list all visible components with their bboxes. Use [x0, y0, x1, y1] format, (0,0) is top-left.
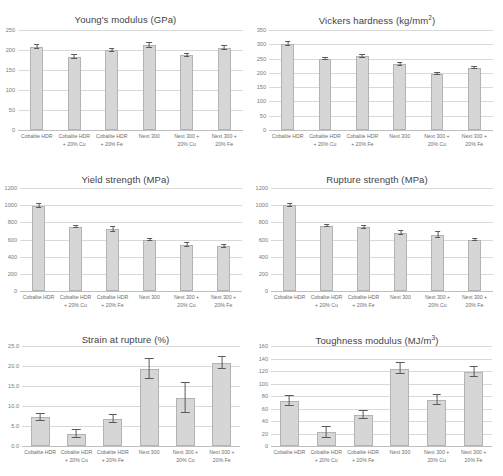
y-axis-tick-label: 100 — [257, 98, 266, 104]
error-bar-cap-top — [109, 414, 118, 415]
y-axis-tick-labels: 020040060080010001200 — [251, 188, 268, 291]
x-axis-category-label: Next 300 — [131, 448, 167, 464]
error-bar — [221, 356, 222, 369]
chart-panel-toughness-modulus: Toughness modulus (MJ/m3)020406080100120… — [251, 320, 503, 476]
bar-slot — [345, 188, 382, 291]
x-axis-category-label: Cobalite HDR + 20% Cu — [306, 132, 343, 148]
bar — [281, 44, 294, 130]
bar-slot — [131, 30, 169, 130]
error-bar-cap-top — [396, 362, 405, 363]
y-axis-tick-label: 800 — [8, 219, 17, 225]
y-axis-tick-label: 1200 — [5, 185, 17, 191]
bar-slot — [269, 30, 306, 130]
plot-area: 020406080100120140160 — [271, 346, 492, 446]
x-axis-category-label: Cobalite HDR + 20% Cu — [308, 293, 345, 309]
bar — [32, 206, 45, 291]
bar — [280, 401, 299, 446]
plot-area: 050100150200250300350 — [269, 30, 493, 130]
error-bar-cap-bottom — [145, 378, 154, 379]
y-axis-tick-label: 250 — [6, 27, 15, 33]
bar — [320, 226, 333, 291]
y-axis-tick-labels: 050100150200250300350 — [251, 30, 266, 130]
plot-area: 020040060080010001200 — [20, 188, 242, 291]
chart-title-text: Toughness modulus (MJ/m — [316, 335, 432, 346]
error-bar-cap-bottom — [73, 227, 79, 228]
error-bar-cap-bottom — [322, 437, 331, 438]
error-bar-cap-top — [322, 426, 331, 427]
x-axis-category-labels: Cobalite HDRCobalite HDR + 20% CuCobalit… — [269, 132, 493, 148]
error-bar-cap-bottom — [397, 65, 403, 66]
error-bar-cap-bottom — [287, 206, 293, 207]
x-axis-category-label: Cobalite HDR + 20% Cu — [56, 132, 94, 148]
error-bar-cap-bottom — [71, 58, 77, 59]
y-axis-tick-label: 0.0 — [11, 443, 19, 449]
bar-slot — [455, 346, 492, 446]
error-bar-cap-bottom — [109, 422, 118, 423]
y-axis-tick-label: 400 — [259, 254, 268, 260]
x-axis-category-label: Cobalite HDR — [20, 293, 57, 309]
bar-slot — [306, 30, 343, 130]
error-bar-cap-top — [397, 62, 403, 63]
chart-title: Rupture strength (MPa) — [251, 174, 503, 185]
y-axis-tick-label: 60 — [262, 406, 268, 412]
error-bar-cap-top — [73, 225, 79, 226]
bar — [143, 240, 156, 292]
y-axis-tick-label: 5.0 — [11, 423, 19, 429]
chart-title-text: Yield strength (MPa) — [81, 174, 169, 185]
bar — [68, 57, 81, 130]
x-axis-category-label: Next 300 + 20% Fe — [456, 132, 493, 148]
error-bar-cap-bottom — [285, 405, 294, 406]
y-axis-tick-label: 25.0 — [8, 343, 19, 349]
error-bar-cap-bottom — [184, 246, 190, 247]
bar — [180, 55, 193, 130]
bar-slot — [56, 30, 94, 130]
error-bar-cap-bottom — [469, 376, 478, 377]
bar — [105, 50, 118, 130]
error-bar-cap-bottom — [109, 51, 115, 52]
error-bar-cap-top — [145, 358, 154, 359]
axis-baseline — [22, 446, 240, 447]
x-axis-category-labels: Cobalite HDRCobalite HDR + 20% CuCobalit… — [22, 448, 240, 464]
bar-slot — [344, 30, 381, 130]
x-axis-category-label: Next 300 + 20% Fe — [206, 132, 244, 148]
bar-slot — [381, 30, 418, 130]
x-axis-category-label: Cobalite HDR + 20% Fe — [94, 293, 131, 309]
bar-slot — [131, 346, 167, 446]
y-axis-tick-label: 200 — [6, 47, 15, 53]
y-axis-tick-label: 150 — [257, 84, 266, 90]
chart-panel-strain-at-rupture: Strain at rupture (%)0.05.010.015.020.02… — [0, 320, 251, 476]
bar-slot — [271, 188, 308, 291]
x-axis-category-label: Cobalite HDR + 20% Fe — [93, 132, 131, 148]
bar-slot — [95, 346, 131, 446]
bar — [143, 45, 156, 130]
x-axis-category-label: Cobalite HDR — [269, 132, 306, 148]
x-axis-category-label: Next 300 — [381, 132, 418, 148]
x-axis-category-label: Cobalite HDR + 20% Cu — [57, 293, 94, 309]
bar-slot — [308, 346, 345, 446]
bar — [31, 417, 50, 446]
y-axis-tick-label: 80 — [262, 393, 268, 399]
y-axis-tick-label: 1000 — [256, 202, 268, 208]
error-bar-cap-bottom — [221, 49, 227, 50]
error-bar-cap-top — [218, 356, 227, 357]
x-axis-category-label: Next 300 — [131, 132, 169, 148]
bar-slot — [419, 188, 456, 291]
error-bar-cap-top — [221, 45, 227, 46]
error-bar-cap-top — [285, 41, 291, 42]
bar-slot — [205, 188, 242, 291]
bar — [283, 205, 296, 291]
error-bar-cap-bottom — [432, 404, 441, 405]
error-bar-cap-top — [361, 225, 367, 226]
error-bar — [149, 358, 150, 379]
error-bar-cap-bottom — [181, 412, 190, 413]
bar-slot — [93, 30, 131, 130]
chart-title: Strain at rupture (%) — [0, 334, 251, 345]
x-axis-category-label: Next 300 + 20% Cu — [419, 293, 456, 309]
axis-baseline — [20, 291, 242, 292]
chart-title-text: Vickers hardness (kg/mm — [319, 15, 428, 26]
x-axis-category-labels: Cobalite HDRCobalite HDR + 20% CuCobalit… — [20, 293, 242, 309]
bar-slot — [167, 346, 203, 446]
x-axis-category-label: Next 300 + 20% Fe — [455, 448, 492, 464]
bar — [354, 415, 373, 446]
y-axis-tick-label: 600 — [259, 237, 268, 243]
